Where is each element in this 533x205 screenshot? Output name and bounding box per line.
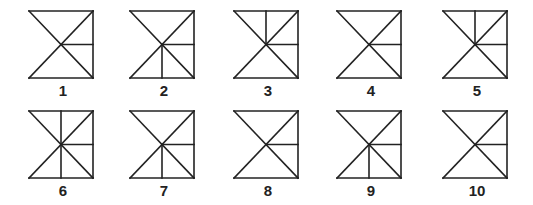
- figure-number: 8: [233, 182, 303, 199]
- figure-number: 7: [129, 182, 199, 199]
- hourglass-square-shape: [233, 110, 303, 182]
- figure-6: 6: [28, 110, 98, 205]
- figure-number: 2: [129, 82, 199, 99]
- hourglass-square-shape: [28, 10, 98, 82]
- figure-8: 8: [233, 110, 303, 205]
- figure-9: 9: [336, 110, 406, 205]
- hourglass-square-shape: [336, 10, 406, 82]
- figure-7: 7: [129, 110, 199, 205]
- figure-number: 10: [442, 182, 512, 199]
- hourglass-square-shape: [442, 10, 512, 82]
- figure-3: 3: [233, 10, 303, 106]
- hourglass-square-shape: [233, 10, 303, 82]
- hourglass-square-shape: [442, 110, 512, 182]
- figure-number: 3: [233, 82, 303, 99]
- hourglass-square-shape: [336, 110, 406, 182]
- figure-number: 5: [442, 82, 512, 99]
- figure-number: 9: [336, 182, 406, 199]
- figure-number: 4: [336, 82, 406, 99]
- figure-1: 1: [28, 10, 98, 106]
- figure-2: 2: [129, 10, 199, 106]
- figure-4: 4: [336, 10, 406, 106]
- hourglass-square-shape: [28, 110, 98, 182]
- hourglass-square-shape: [129, 10, 199, 82]
- figure-number: 1: [28, 82, 98, 99]
- hourglass-square-shape: [129, 110, 199, 182]
- figure-number: 6: [28, 182, 98, 199]
- figure-10: 10: [442, 110, 512, 205]
- figure-5: 5: [442, 10, 512, 106]
